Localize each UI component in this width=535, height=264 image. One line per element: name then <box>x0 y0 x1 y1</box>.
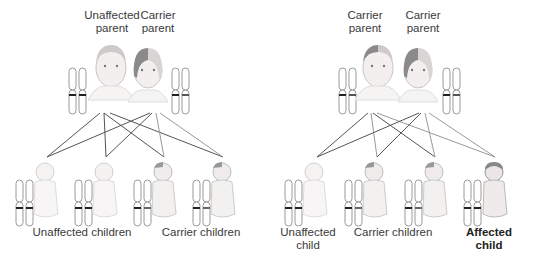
parent-2-label-line1: Carrier <box>132 9 184 22</box>
inheritance-lines <box>47 113 223 157</box>
panel-art <box>0 0 267 264</box>
child-3-carrier <box>134 162 176 226</box>
unaffected-child-label-line2: child <box>273 239 343 252</box>
parent2-chromosomes <box>172 68 189 114</box>
parent1-chromosomes <box>69 68 86 114</box>
parent1-chromosomes <box>339 68 356 114</box>
unaffected-child-label: Unaffected child <box>273 226 343 252</box>
parent-2-label-line2: parent <box>393 22 453 35</box>
parent2-chromosomes <box>443 68 460 114</box>
carrier-children-label: Carrier children <box>353 226 433 239</box>
affected-child-label-line2: child <box>459 239 519 252</box>
father-face-carrier <box>355 45 401 100</box>
unaffected-children-label: Unaffected children <box>22 226 142 239</box>
parent-1-label-line1: Carrier <box>335 9 395 22</box>
parent-2-label: Carrier parent <box>132 9 184 35</box>
affected-child-label: Affected child <box>459 226 519 252</box>
inheritance-panel-two-carriers: Carrier parent Carrier parent Unaffected… <box>267 0 534 264</box>
parent-2-label: Carrier parent <box>393 9 453 35</box>
inheritance-lines <box>317 113 495 157</box>
mother-face-carrier <box>398 48 438 102</box>
affected-child-label-line1: Affected <box>459 226 519 239</box>
parent-1-label-line2: parent <box>335 22 395 35</box>
child-2-carrier <box>345 162 387 226</box>
child-2-unaffected <box>75 163 117 226</box>
child-1-unaffected <box>16 163 58 226</box>
mother-face-carrier <box>128 48 168 102</box>
child-1-unaffected <box>285 163 327 226</box>
unaffected-child-label-line1: Unaffected <box>273 226 343 239</box>
father-face <box>88 45 134 100</box>
parent-2-label-line1: Carrier <box>393 9 453 22</box>
child-4-carrier <box>193 162 235 226</box>
parent-1-label: Carrier parent <box>335 9 395 35</box>
child-4-affected <box>464 162 507 226</box>
inheritance-panel-one-carrier: Unaffected parent Carrier parent Unaffec… <box>0 0 267 264</box>
parent-2-label-line2: parent <box>132 22 184 35</box>
carrier-children-label: Carrier children <box>156 226 246 239</box>
panel-art <box>267 0 535 264</box>
child-3-carrier <box>405 162 447 226</box>
